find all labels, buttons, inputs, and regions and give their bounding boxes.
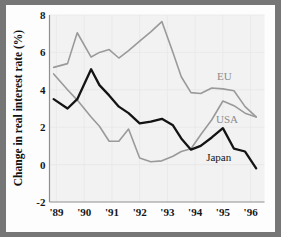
y-tick-label: 6 <box>40 46 46 58</box>
y-tick-label: 8 <box>40 9 46 21</box>
x-tick-label: '93 <box>160 206 175 218</box>
figure-root: -202468 '89'90'91'92'93'94'95'96 EUUSAJa… <box>0 0 281 237</box>
y-tick-label: 2 <box>40 121 46 133</box>
y-tick-label: -2 <box>36 196 46 208</box>
series-label-eu: EU <box>217 70 232 82</box>
x-tick-label: '92 <box>133 206 148 218</box>
series-label-japan: Japan <box>206 151 232 163</box>
series-label-usa: USA <box>216 113 238 125</box>
x-tick-labels: '89'90'91'92'93'94'95'96 <box>49 206 258 218</box>
x-tick-label: '91 <box>105 206 119 218</box>
y-tick-labels: -202468 <box>36 9 46 208</box>
x-tick-label: '95 <box>216 206 231 218</box>
x-tick-label: '94 <box>188 206 203 218</box>
y-tick-label: 4 <box>40 84 46 96</box>
x-tick-label: '96 <box>244 206 259 218</box>
y-tick-label: 0 <box>40 159 46 171</box>
chart-canvas: -202468 '89'90'91'92'93'94'95'96 EUUSAJa… <box>0 0 281 237</box>
x-tick-label: '90 <box>77 206 92 218</box>
y-axis-title: Change in real interest rate (%) <box>12 30 25 187</box>
plot-background <box>50 15 265 202</box>
x-tick-label: '89 <box>49 206 64 218</box>
